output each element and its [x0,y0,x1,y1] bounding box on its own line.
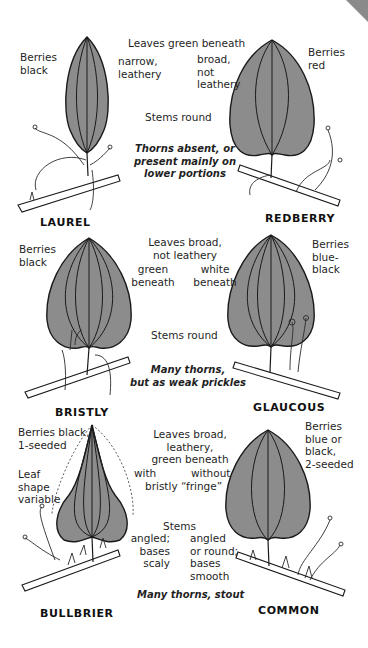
bristly-berries-note: Berries black [19,243,56,268]
row1-leaves-left: narrow, leathery [118,55,162,80]
row1-stems: Stems round [145,111,212,124]
row3-thorns: Many thorns, stout [137,589,244,602]
row1-thorns: Thorns absent, or present mainly on lowe… [130,143,240,181]
row2-leaves-right: white beneath [190,263,240,288]
species-common: COMMON [258,604,319,617]
species-bristly: BRISTLY [55,406,109,419]
species-laurel: LAUREL [40,216,91,229]
row1-leaves-right: broad, not leathery [197,53,241,91]
bullbrier-berries-note: Berries black, 1-seeded [18,426,90,451]
row3-leaves-left: with [134,467,156,480]
row3-stems-right: angled or round; bases smooth [190,532,238,582]
species-bullbrier: BULLBRIER [40,607,114,620]
row2-leaves-left: green beneath [128,263,178,288]
row3-stems: Stems [163,520,196,533]
bullbrier-leaf-shape-note: Leaf shape variable [18,468,60,506]
row1-leaves-heading: Leaves green beneath [128,37,245,50]
species-redberry: REDBERRY [265,212,335,225]
row3-leaves-footer: bristly “fringe” [145,480,222,493]
species-glaucous: GLAUCOUS [253,401,325,414]
row2-thorns: Many thorns, but as weak prickles [128,364,248,389]
glaucous-berries-note: Berries blue- black [312,238,349,276]
common-berries-note: Berries blue or black, 2-seeded [305,420,354,470]
laurel-berries-note: Berries black [20,51,57,76]
illustrations: .leaf { fill: #8c8c8c; stroke: #1a1a1a; … [0,0,368,648]
row3-leaves-right: without [191,467,230,480]
row3-stems-left: angled; bases scaly [128,532,170,570]
redberry-berries-note: Berries red [308,46,345,71]
row2-stems: Stems round [151,329,218,342]
row3-leaves-heading: Leaves broad, leathery, green beneath [140,428,240,466]
row2-leaves-heading: Leaves broad, not leathery [135,236,235,261]
